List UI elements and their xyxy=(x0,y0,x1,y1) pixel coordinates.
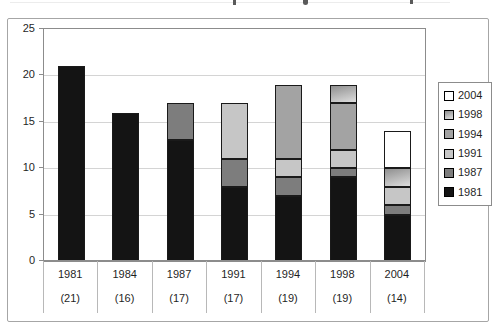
legend-label: 1981 xyxy=(458,187,482,198)
legend-swatch-1987 xyxy=(444,168,454,178)
x-tick-label-count: (19) xyxy=(315,292,369,305)
cropped-text-fragment xyxy=(410,0,413,4)
legend-label: 1987 xyxy=(458,167,482,178)
x-tick-label-year: 1991 xyxy=(206,268,260,281)
y-tick-label: 25 xyxy=(11,23,35,34)
x-tick-label-count: (16) xyxy=(97,292,151,305)
x-tick-label-count: (17) xyxy=(152,292,206,305)
axis-layer: 05101520251981(21)1984(16)1987(17)1991(1… xyxy=(8,19,490,323)
legend-item-1981[interactable]: 1981 xyxy=(444,187,491,198)
y-tick-label: 20 xyxy=(11,69,35,80)
x-tick-label-year: 1994 xyxy=(261,268,315,281)
legend-item-1994[interactable]: 1994 xyxy=(444,129,491,140)
category-separator xyxy=(424,261,425,313)
x-axis-line xyxy=(43,260,425,261)
y-tick-mark xyxy=(39,167,43,168)
cropped-text-fragment xyxy=(10,2,450,3)
x-tick-label-year: 1981 xyxy=(43,268,97,281)
y-tick-mark xyxy=(39,74,43,75)
legend-swatch-1981 xyxy=(444,187,454,197)
chart-frame[interactable]: 05101520251981(21)1984(16)1987(17)1991(1… xyxy=(7,18,489,322)
y-tick-mark xyxy=(39,214,43,215)
x-tick-label-year: 1987 xyxy=(152,268,206,281)
cropped-text-fragment xyxy=(233,0,236,5)
cropped-text-fragment xyxy=(303,0,308,5)
legend-swatch-2004 xyxy=(444,91,454,101)
legend-swatch-1994 xyxy=(444,129,454,139)
legend-label: 1998 xyxy=(458,109,482,120)
legend-swatch-1991 xyxy=(444,149,454,159)
legend-item-1998[interactable]: 1998 xyxy=(444,109,491,120)
y-tick-label: 15 xyxy=(11,116,35,127)
x-tick-label-count: (19) xyxy=(261,292,315,305)
legend-label: 1994 xyxy=(458,129,482,140)
x-tick-label-count: (17) xyxy=(206,292,260,305)
y-tick-label: 0 xyxy=(11,255,35,266)
y-tick-mark xyxy=(39,28,43,29)
legend-item-2004[interactable]: 2004 xyxy=(444,90,491,101)
legend-label: 1991 xyxy=(458,148,482,159)
x-tick-label-year: 1984 xyxy=(97,268,151,281)
y-tick-label: 5 xyxy=(11,209,35,220)
y-tick-label: 10 xyxy=(11,162,35,173)
legend-item-1987[interactable]: 1987 xyxy=(444,167,491,178)
x-tick-label-count: (21) xyxy=(43,292,97,305)
legend-item-1991[interactable]: 1991 xyxy=(444,148,491,159)
legend[interactable]: 200419981994199119871981 xyxy=(438,82,492,206)
y-tick-mark xyxy=(39,121,43,122)
legend-swatch-1998 xyxy=(444,110,454,120)
x-tick-label-count: (14) xyxy=(370,292,424,305)
chart-canvas: 05101520251981(21)1984(16)1987(17)1991(1… xyxy=(0,0,493,330)
x-tick-label-year: 1998 xyxy=(315,268,369,281)
x-tick-label-year: 2004 xyxy=(370,268,424,281)
legend-label: 2004 xyxy=(458,90,482,101)
